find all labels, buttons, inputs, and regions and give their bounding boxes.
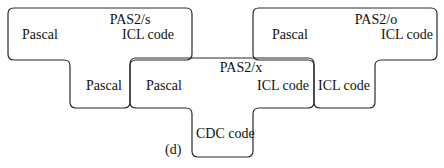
compiler-name-pas2-s: PAS2/s [110, 12, 151, 28]
implementation-language-label: Pascal [86, 78, 122, 94]
figure-caption: (d) [165, 142, 181, 158]
compiler-name-pas2-o: PAS2/o [355, 12, 397, 28]
source-language-label: Pascal [146, 78, 182, 94]
target-language-label: ICL code [122, 27, 174, 43]
target-language-label: ICL code [257, 78, 309, 94]
source-language-label: Pascal [22, 27, 58, 43]
source-language-label: Pascal [272, 27, 308, 43]
implementation-language-label: ICL code [318, 78, 370, 94]
target-language-label: ICL code [381, 27, 433, 43]
compiler-name-pas2-x: PAS2/x [220, 60, 262, 76]
implementation-language-label: CDC code [196, 126, 255, 142]
